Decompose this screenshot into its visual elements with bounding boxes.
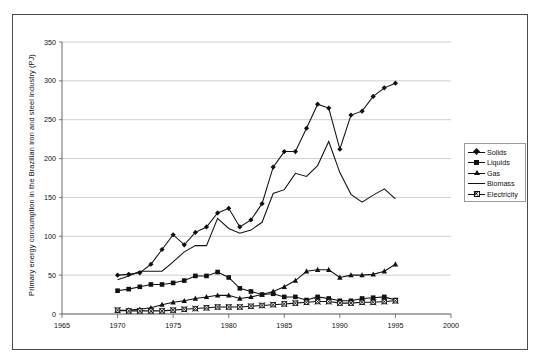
- legend-item-electricity: Electricity: [468, 189, 523, 200]
- chart-figure: Primary energy consumption in the Brazil…: [0, 0, 542, 364]
- legend-label: Liquids: [487, 158, 510, 167]
- x-tick-label: 1965: [54, 321, 70, 330]
- y-tick-label: 350: [44, 38, 56, 47]
- x-tick-label: 1995: [387, 321, 403, 330]
- x-tick-label: 1975: [165, 321, 181, 330]
- x-tick-label: 1980: [221, 321, 237, 330]
- x-tick-label: 1990: [332, 321, 348, 330]
- liquids-marker-icon: [468, 158, 485, 168]
- gas-marker-icon: [468, 168, 485, 178]
- legend-label: Gas: [487, 169, 500, 178]
- legend-item-gas: Gas: [468, 168, 523, 179]
- solids-marker-icon: [468, 147, 485, 157]
- y-tick-label: 100: [44, 232, 56, 241]
- y-tick-label: 250: [44, 115, 56, 124]
- y-tick-label: 300: [44, 76, 56, 85]
- legend-label: Solids: [487, 148, 507, 157]
- line-chart-plot: 0501001502002503003501965197019751980198…: [0, 0, 542, 364]
- y-tick-label: 50: [48, 271, 56, 280]
- legend-item-liquids: Liquids: [468, 158, 523, 169]
- series-solids: [115, 81, 398, 278]
- electricity-marker-icon: [468, 189, 485, 199]
- x-tick-label: 2000: [443, 321, 459, 330]
- biomass-marker-icon: [468, 179, 485, 189]
- y-tick-label: 200: [44, 154, 56, 163]
- series-biomass: [118, 141, 396, 279]
- legend-item-biomass: Biomass: [468, 179, 523, 190]
- y-tick-label: 0: [52, 310, 56, 319]
- legend-label: Electricity: [487, 190, 518, 199]
- x-tick-label: 1985: [276, 321, 292, 330]
- legend-item-solids: Solids: [468, 147, 523, 158]
- legend-label: Biomass: [487, 179, 515, 188]
- y-tick-label: 150: [44, 193, 56, 202]
- x-tick-label: 1970: [110, 321, 126, 330]
- chart-legend: Solids Liquids Gas Biomass Electricity: [464, 143, 526, 202]
